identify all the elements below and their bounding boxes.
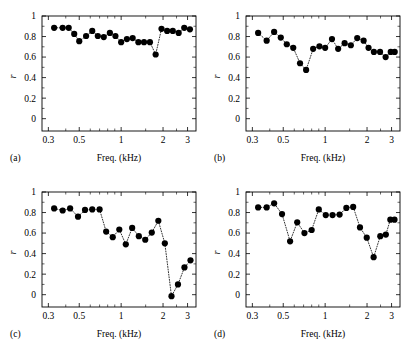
data-point	[361, 38, 367, 44]
data-point	[66, 25, 72, 31]
data-point	[60, 25, 66, 31]
panel-tag: (b)	[214, 153, 225, 164]
data-point	[96, 206, 102, 212]
panel-tag: (a)	[10, 153, 21, 164]
y-tick-label: 0	[31, 290, 36, 300]
x-tick-label: 2	[365, 135, 370, 145]
data-point	[187, 26, 193, 32]
data-point	[142, 237, 148, 243]
x-tick-label: 1	[119, 135, 124, 145]
data-point	[89, 28, 95, 34]
data-point	[279, 211, 285, 217]
data-point	[118, 39, 124, 45]
y-tick-label: 0.8	[24, 208, 36, 218]
data-point	[342, 40, 348, 46]
data-point	[141, 39, 147, 45]
data-point	[271, 29, 277, 35]
x-tick-label: 3	[185, 311, 190, 321]
data-point	[357, 224, 363, 230]
y-axis-title: r	[7, 250, 18, 254]
x-tick-label: 3	[185, 135, 190, 145]
data-point	[316, 206, 322, 212]
y-tick-label: 0.6	[228, 228, 240, 238]
panel-d-plot: 0.30.512300.20.40.60.81rFreq. (kHz)(d)	[204, 176, 408, 352]
data-point	[343, 205, 349, 211]
y-tick-label: 1	[31, 187, 36, 197]
y-tick-label: 0.8	[24, 32, 36, 42]
x-axis-title: Freq. (kHz)	[301, 329, 345, 340]
data-point	[107, 30, 113, 36]
y-tick-label: 0.4	[228, 249, 240, 259]
data-point	[175, 281, 181, 287]
data-point	[377, 233, 383, 239]
panel-tag: (c)	[10, 329, 21, 340]
data-point	[60, 207, 66, 213]
x-tick-label: 0.3	[42, 311, 54, 321]
y-tick-label: 0.2	[228, 94, 240, 104]
data-point	[181, 264, 187, 270]
y-tick-label: 0.4	[24, 249, 36, 259]
data-point	[158, 26, 164, 32]
panel-a-plot: 0.30.512300.20.40.60.81rFreq. (kHz)(a)	[0, 0, 204, 176]
data-point	[116, 226, 122, 232]
y-tick-label: 1	[235, 11, 240, 21]
x-tick-label: 1	[323, 311, 328, 321]
x-tick-label: 0.3	[42, 135, 54, 145]
data-point	[316, 43, 322, 49]
y-tick-label: 0.8	[228, 208, 240, 218]
data-point	[168, 293, 174, 299]
data-point	[101, 34, 107, 40]
data-point	[365, 45, 371, 51]
data-point	[135, 39, 141, 45]
data-point	[75, 214, 81, 220]
y-tick-label: 0	[235, 114, 240, 124]
data-point	[110, 234, 116, 240]
data-point	[255, 30, 261, 36]
panel-b-plot: 0.30.512300.20.40.60.81rFreq. (kHz)(b)	[204, 0, 408, 176]
y-tick-label: 0.2	[24, 94, 36, 104]
data-point	[136, 233, 142, 239]
x-tick-label: 0.5	[277, 311, 289, 321]
data-point	[124, 36, 130, 42]
data-point	[303, 67, 309, 73]
data-point	[377, 49, 383, 55]
x-tick-label: 1	[323, 135, 328, 145]
y-tick-label: 0	[31, 114, 36, 124]
y-axis-title: r	[211, 250, 222, 254]
data-point	[149, 229, 155, 235]
y-tick-label: 0.8	[228, 32, 240, 42]
x-tick-label: 2	[161, 135, 166, 145]
data-point	[329, 36, 335, 42]
data-point	[176, 30, 182, 36]
panel-a: 0.30.512300.20.40.60.81rFreq. (kHz)(a)	[0, 0, 204, 176]
data-point	[187, 257, 193, 263]
data-point	[284, 41, 290, 47]
panel-tag: (d)	[214, 329, 225, 340]
data-point	[350, 204, 356, 210]
data-point	[336, 211, 342, 217]
x-axis-title: Freq. (kHz)	[97, 329, 141, 340]
data-point	[290, 45, 296, 51]
y-tick-label: 0	[235, 290, 240, 300]
data-point	[271, 200, 277, 206]
panel-b: 0.30.512300.20.40.60.81rFreq. (kHz)(b)	[204, 0, 408, 176]
data-point	[103, 228, 109, 234]
x-tick-label: 3	[389, 311, 394, 321]
data-point	[67, 205, 73, 211]
data-point	[335, 46, 341, 52]
y-tick-label: 0.6	[228, 52, 240, 62]
y-tick-label: 0.4	[24, 73, 36, 83]
data-point	[76, 38, 82, 44]
y-tick-label: 0.6	[24, 228, 36, 238]
x-tick-label: 2	[365, 311, 370, 321]
data-point	[348, 42, 354, 48]
figure-root: 0.30.512300.20.40.60.81rFreq. (kHz)(a) 0…	[0, 0, 408, 353]
data-point	[130, 35, 136, 41]
data-point	[147, 39, 153, 45]
data-point	[82, 207, 88, 213]
data-point	[153, 51, 159, 57]
data-point	[181, 25, 187, 31]
data-point	[383, 54, 389, 60]
data-point	[301, 230, 307, 236]
x-axis-title: Freq. (kHz)	[301, 153, 345, 164]
